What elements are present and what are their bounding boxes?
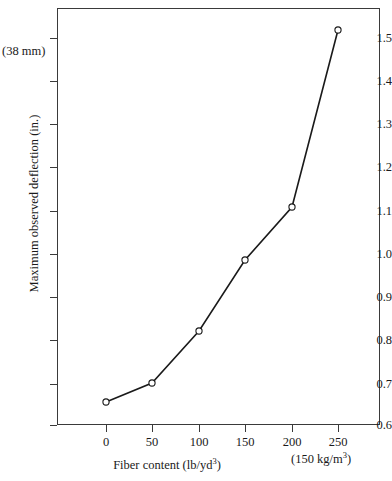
y-axis-title: Maximum observed deflection (in.) — [27, 84, 42, 324]
y-tick-mark — [50, 297, 57, 298]
y-tick-label: 1.1 — [348, 205, 392, 218]
y-tick-label: 1.5 — [348, 32, 392, 45]
y-tick-label: 0.9 — [348, 291, 392, 304]
y-tick-mark — [50, 124, 57, 125]
x-tick-mark — [199, 425, 200, 432]
y-tick-label: 0.6 — [348, 419, 392, 432]
x-tick-label: 150 — [222, 436, 268, 449]
x-axis-title-close: ) — [217, 458, 221, 472]
y-tick-mark — [50, 211, 57, 212]
x-tick-mark — [245, 425, 246, 432]
x-axis-title-text: Fiber content (lb/yd — [113, 458, 212, 472]
y-tick-mark — [50, 254, 57, 255]
x-tick-mark — [152, 425, 153, 432]
y-tick-label: 1.4 — [348, 75, 392, 88]
y-tick-mark — [50, 425, 57, 426]
y-tick-label: 1.3 — [348, 118, 392, 131]
y-tick-mark — [50, 384, 57, 385]
y-tick-mark — [50, 81, 57, 82]
x-tick-label: 0 — [83, 436, 129, 449]
y-axis-metric-annotation: (38 mm) — [2, 44, 45, 59]
y-tick-label: 0.8 — [348, 334, 392, 347]
x-tick-mark — [338, 425, 339, 432]
x-tick-mark — [106, 425, 107, 432]
x-axis-metric-annotation: (150 kg/m3) — [291, 452, 351, 467]
y-tick-label: 0.7 — [348, 378, 392, 391]
y-tick-mark — [50, 167, 57, 168]
y-tick-mark — [50, 38, 57, 39]
x-tick-label: 100 — [176, 436, 222, 449]
x-metric-text: (150 kg/m — [291, 452, 343, 466]
y-tick-label: 1.2 — [348, 161, 392, 174]
x-metric-close: ) — [347, 452, 351, 466]
y-tick-label: 1.0 — [348, 248, 392, 261]
plot-frame — [57, 8, 380, 425]
x-tick-label: 200 — [269, 436, 315, 449]
x-axis-title: Fiber content (lb/yd3) — [57, 458, 277, 473]
chart-figure: 1.5 1.4 1.3 1.2 1.1 1.0 0.9 0.8 0.7 0.6 … — [0, 0, 392, 481]
x-tick-label: 50 — [129, 436, 175, 449]
y-tick-mark — [50, 340, 57, 341]
x-tick-mark — [292, 425, 293, 432]
x-tick-label: 250 — [315, 436, 361, 449]
